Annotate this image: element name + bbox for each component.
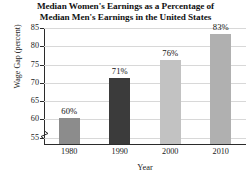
- y-axis-tick-label: 60: [31, 115, 39, 123]
- x-axis-tick-label: 1980: [61, 147, 77, 156]
- bar: 76%2000: [160, 60, 181, 144]
- chart-title-line-1: Median Women's Earnings as a Percentage …: [0, 1, 251, 12]
- y-axis-tick-label: 65: [31, 97, 39, 105]
- bar-value-label: 71%: [112, 67, 128, 76]
- x-axis-tick-label: 2010: [213, 147, 229, 156]
- bar: 60%1980: [59, 118, 80, 144]
- chart-title-line-2: Median Men's Earnings in the United Stat…: [0, 12, 251, 23]
- x-axis-title: Year: [44, 163, 246, 172]
- y-axis-tick: [40, 65, 44, 66]
- x-axis-tick-label: 1990: [112, 147, 128, 156]
- bar-value-label: 83%: [213, 23, 229, 32]
- y-axis-tick-label: 55: [31, 134, 39, 142]
- bar: 71%1990: [109, 78, 130, 144]
- chart-figure: Median Women's Earnings as a Percentage …: [0, 0, 251, 180]
- bar-value-label: 60%: [61, 107, 77, 116]
- y-axis-tick: [40, 46, 44, 47]
- axis-break-icon: [40, 127, 49, 145]
- y-axis-tick-label: 80: [31, 42, 39, 50]
- y-axis-tick-label: 75: [31, 60, 39, 68]
- chart-title: Median Women's Earnings as a Percentage …: [0, 1, 251, 23]
- y-axis-tick: [40, 101, 44, 102]
- plot-area: 55606570758085 60%198071%199076%200083%2…: [44, 28, 246, 145]
- y-axis-tick-label: 85: [31, 24, 39, 32]
- y-axis-tick: [40, 83, 44, 84]
- y-axis-title: Wage Gap (percent): [13, 7, 22, 107]
- y-axis-tick: [40, 119, 44, 120]
- x-axis-tick-label: 2000: [162, 147, 178, 156]
- y-axis-tick-label: 70: [31, 79, 39, 87]
- y-axis-tick: [40, 28, 44, 29]
- bar: 83%2010: [210, 34, 231, 144]
- bar-value-label: 76%: [162, 49, 178, 58]
